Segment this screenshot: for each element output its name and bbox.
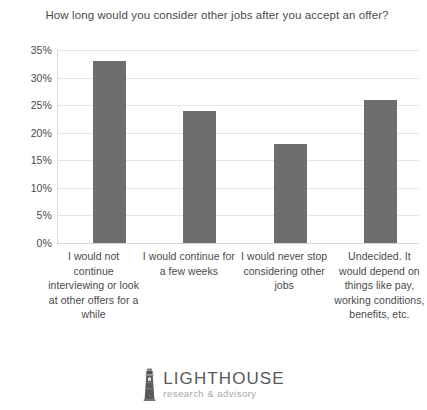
x-axis-category-label: I would continue for a few weeks — [142, 249, 235, 278]
bar — [274, 144, 307, 243]
bar — [183, 111, 216, 243]
lighthouse-logo: LIGHTHOUSE research & advisory — [0, 368, 427, 401]
y-axis-tick-label: 15% — [6, 154, 52, 166]
logo-text-block: LIGHTHOUSE research & advisory — [163, 370, 285, 399]
bar — [93, 61, 126, 243]
y-axis-tick-label: 10% — [6, 182, 52, 194]
y-axis-tick-label: 30% — [6, 72, 52, 84]
lighthouse-icon — [142, 368, 157, 401]
y-axis-tick-label: 35% — [6, 44, 52, 56]
logo-tagline: research & advisory — [163, 389, 285, 399]
y-axis-tick-label: 25% — [6, 99, 52, 111]
gridline — [57, 50, 419, 51]
chart-title: How long would you consider other jobs a… — [42, 7, 392, 23]
y-axis-tick-label: 5% — [6, 209, 52, 221]
x-axis-category-label: I would not continue interviewing or loo… — [47, 249, 140, 322]
logo-name: LIGHTHOUSE — [163, 370, 285, 387]
x-axis-category-label: I would never stop considering other job… — [238, 249, 331, 293]
plot-area — [57, 50, 419, 243]
y-axis-tick-labels: 35%30%25%20%15%10%5%0% — [0, 50, 52, 244]
y-axis-tick-label: 20% — [6, 127, 52, 139]
y-axis-tick-label: 0% — [6, 237, 52, 249]
x-axis-baseline — [57, 243, 419, 244]
x-axis-category-labels: I would not continue interviewing or loo… — [46, 249, 427, 359]
x-axis-category-label: Undecided. It would depend on things lik… — [333, 249, 426, 322]
bar-chart-figure: How long would you consider other jobs a… — [0, 0, 427, 410]
bar — [364, 100, 397, 243]
